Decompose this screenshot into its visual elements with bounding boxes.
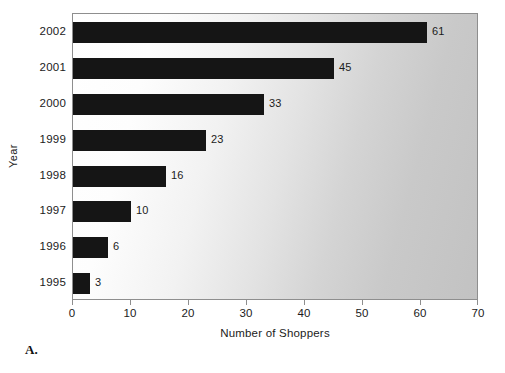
bar-value-label: 3 <box>95 272 101 293</box>
bar-value-label: 45 <box>339 57 352 78</box>
bar-value-label: 61 <box>432 21 445 42</box>
x-axis-tick-mark <box>188 300 189 305</box>
bar-value-label: 23 <box>211 129 224 150</box>
x-axis-tick-mark <box>72 300 73 305</box>
x-axis-tick-label: 70 <box>458 307 498 319</box>
x-axis-tick-mark <box>362 300 363 305</box>
x-axis-tick-mark <box>477 300 478 305</box>
bar-value-label: 33 <box>269 93 282 114</box>
x-axis-tick-label: 40 <box>284 307 324 319</box>
bar-value-label: 16 <box>171 165 184 186</box>
x-axis-tick-label: 30 <box>226 307 266 319</box>
x-axis-tick-label: 50 <box>342 307 382 319</box>
x-axis-tick-mark <box>304 300 305 305</box>
x-axis-tick-mark <box>420 300 421 305</box>
x-axis-tick-label: 20 <box>168 307 208 319</box>
x-axis-tick-mark <box>246 300 247 305</box>
x-axis-tick-label: 10 <box>110 307 150 319</box>
x-axis-tick-mark <box>130 300 131 305</box>
x-axis-tick-label: 60 <box>400 307 440 319</box>
x-axis-title: Number of Shoppers <box>72 327 478 339</box>
figure-container: Year 20022001200019991998199719961995 61… <box>0 0 505 373</box>
figure-label: A. <box>25 342 38 358</box>
bar-value-label: 6 <box>113 236 119 257</box>
bar-value-label: 10 <box>136 200 149 221</box>
x-axis-tick-label: 0 <box>52 307 92 319</box>
